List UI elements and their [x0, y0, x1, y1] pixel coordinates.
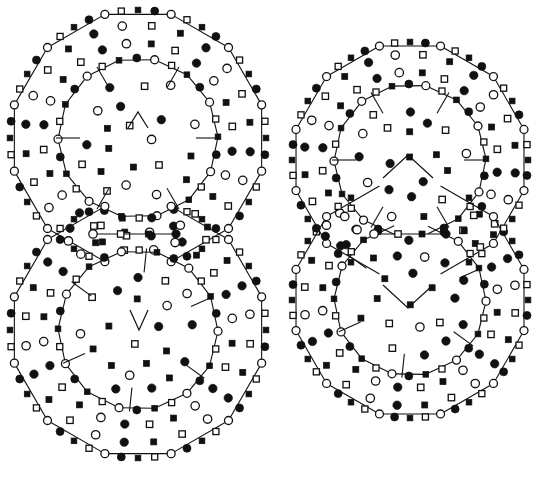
open-circle-marker	[471, 379, 479, 387]
filled-circle-marker	[32, 248, 40, 256]
open-square-marker	[337, 350, 343, 356]
open-square-marker	[501, 225, 507, 231]
open-square-marker	[313, 369, 319, 375]
filled-square-marker	[525, 297, 531, 303]
open-circle-marker	[122, 40, 130, 48]
filled-square-marker	[382, 276, 388, 282]
open-circle-marker	[520, 265, 528, 273]
filled-circle-marker	[289, 281, 297, 289]
open-square-marker	[23, 313, 29, 319]
open-circle-marker	[258, 293, 266, 301]
filled-circle-marker	[334, 250, 342, 258]
open-circle-marker	[44, 417, 52, 425]
filled-square-marker	[77, 402, 83, 408]
open-square-marker	[213, 116, 219, 122]
filled-square-marker	[263, 135, 269, 141]
left-top-unit	[7, 7, 269, 266]
filled-square-marker	[440, 379, 446, 385]
filled-circle-marker	[312, 224, 320, 232]
open-square-marker	[504, 115, 510, 121]
open-circle-marker	[183, 289, 191, 297]
open-square-marker	[343, 381, 349, 387]
open-circle-marker	[459, 366, 467, 374]
filled-square-marker	[302, 172, 308, 178]
filled-square-marker	[210, 193, 216, 199]
filled-circle-marker	[355, 153, 363, 161]
filled-square-marker	[433, 152, 439, 158]
filled-square-marker	[305, 238, 311, 244]
filled-square-marker	[247, 119, 253, 125]
open-square-marker	[33, 405, 39, 411]
filled-circle-marker	[478, 202, 486, 210]
filled-square-marker	[246, 199, 252, 205]
filled-circle-marker	[59, 267, 67, 275]
open-circle-marker	[504, 196, 512, 204]
open-square-marker	[33, 213, 39, 219]
open-circle-marker	[360, 216, 368, 224]
open-circle-marker	[520, 187, 528, 195]
filled-circle-marker	[117, 453, 125, 461]
filled-circle-marker	[523, 311, 531, 319]
filled-circle-marker	[56, 153, 64, 161]
open-circle-marker	[118, 22, 126, 30]
filled-square-marker	[361, 237, 367, 243]
filled-square-marker	[461, 228, 467, 234]
radial-spoke	[454, 332, 473, 346]
filled-square-marker	[135, 7, 141, 13]
open-circle-marker	[301, 311, 309, 319]
filled-square-marker	[246, 391, 252, 397]
open-circle-marker	[191, 120, 199, 128]
filled-square-marker	[41, 314, 47, 320]
open-square-marker	[192, 211, 198, 217]
filled-square-marker	[309, 257, 315, 263]
filled-circle-marker	[465, 344, 473, 352]
open-square-marker	[335, 203, 341, 209]
filled-circle-marker	[7, 117, 15, 125]
open-circle-marker	[462, 149, 470, 157]
filled-circle-marker	[196, 377, 204, 385]
filled-circle-marker	[515, 111, 523, 119]
filled-square-marker	[199, 438, 205, 444]
open-square-marker	[8, 152, 14, 158]
open-square-marker	[86, 253, 92, 259]
open-circle-marker	[475, 188, 483, 196]
filled-square-marker	[188, 153, 194, 159]
filled-square-marker	[177, 30, 183, 36]
filled-circle-marker	[154, 322, 162, 330]
filled-square-marker	[348, 195, 354, 201]
open-square-marker	[152, 454, 158, 460]
filled-circle-marker	[405, 236, 413, 244]
open-circle-marker	[225, 236, 233, 244]
open-square-marker	[31, 179, 37, 185]
cluster-diagram	[0, 0, 548, 486]
filled-circle-marker	[480, 172, 488, 180]
left-cluster	[7, 7, 269, 461]
open-square-marker	[73, 186, 79, 192]
open-square-marker	[99, 399, 105, 405]
filled-circle-marker	[224, 394, 232, 402]
filled-square-marker	[455, 216, 461, 222]
figure-root	[0, 0, 548, 486]
filled-square-marker	[407, 415, 413, 421]
open-circle-marker	[292, 125, 300, 133]
filled-square-marker	[447, 59, 453, 65]
open-circle-marker	[117, 248, 125, 256]
open-square-marker	[179, 431, 185, 437]
open-square-marker	[422, 414, 428, 420]
filled-square-marker	[223, 99, 229, 105]
open-square-marker	[73, 276, 79, 282]
open-circle-marker	[388, 370, 396, 378]
filled-square-marker	[509, 98, 515, 104]
filled-circle-marker	[90, 30, 98, 38]
filled-circle-marker	[71, 375, 79, 383]
filled-circle-marker	[405, 372, 413, 380]
filled-square-marker	[183, 177, 189, 183]
open-square-marker	[169, 400, 175, 406]
filled-circle-marker	[511, 169, 519, 177]
filled-circle-marker	[289, 141, 297, 149]
open-circle-marker	[391, 51, 399, 59]
filled-square-marker	[348, 399, 354, 405]
filled-square-marker	[7, 327, 13, 333]
open-square-marker	[467, 250, 473, 256]
filled-square-marker	[199, 216, 205, 222]
